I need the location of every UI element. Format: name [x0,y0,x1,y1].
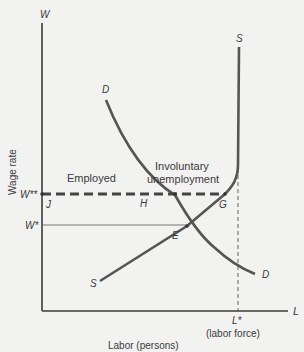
labor-force-label: (labor force) [206,328,260,339]
y-axis-symbol: W [40,9,51,20]
point-j-label: J [45,199,52,210]
supply-label-top: S [236,33,243,44]
demand-label-top: D [102,84,109,95]
point-e [185,224,189,228]
demand-label-bottom: D [262,269,269,280]
x-axis-symbol: L [293,305,299,317]
labor-market-chart: W L Wage rate Labor (persons) D D S S W*… [0,0,304,352]
involuntary-label-1: Involuntary [155,160,209,172]
l-star-label: L* [232,315,243,326]
employed-label: Employed [67,172,116,184]
point-g-label: G [219,199,227,210]
point-h [173,192,177,196]
w-star-label: W* [25,220,39,231]
involuntary-label-2: unemployment [147,173,219,185]
point-e-label: E [172,230,179,241]
w-double-star-label: W** [20,189,38,200]
supply-label-bottom: S [90,278,97,289]
y-axis-label: Wage rate [7,149,18,195]
point-g [223,192,227,196]
point-h-label: H [140,198,148,209]
x-axis-label: Labor (persons) [108,340,179,351]
point-j [40,192,44,196]
